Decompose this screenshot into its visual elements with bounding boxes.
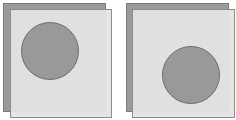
circle xyxy=(22,23,79,80)
panel-right xyxy=(127,4,235,118)
diagram-canvas xyxy=(0,0,236,120)
panel-left xyxy=(4,4,112,118)
circle xyxy=(163,47,220,104)
